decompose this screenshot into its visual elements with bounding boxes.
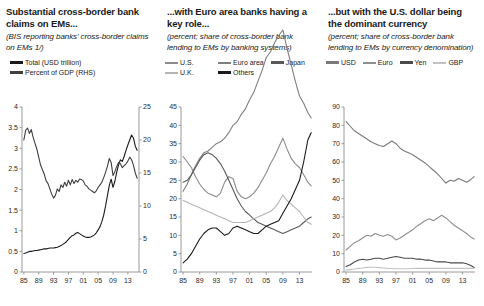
x-axis-tick-label: 09	[109, 277, 117, 284]
chart-bank-claims-plot: 00.511.522.533.5405101520258589939701050…	[0, 103, 161, 288]
legend-item-gbp: GBP	[433, 58, 463, 67]
panel-3-subtitle: (percent; share of cross-border bank len…	[328, 32, 477, 53]
x-axis-tick-label: 05	[262, 277, 270, 284]
x-axis-tick-label: 93	[212, 277, 220, 284]
y-axis-tick-label: 15	[169, 213, 177, 220]
y2-axis-tick-label: 25	[143, 103, 151, 110]
legend-item-us: U.S.	[165, 58, 211, 67]
y-axis-tick-label: 20	[332, 232, 340, 239]
y-axis-tick-label: 0	[14, 268, 18, 275]
panel-3-legend: USD Euro Yen GBP	[322, 58, 483, 67]
chart-series-line	[24, 135, 137, 253]
x-axis-tick-label: 97	[392, 277, 400, 284]
y-axis-tick-label: 45	[169, 103, 177, 110]
legend-label-yen: Yen	[415, 58, 427, 67]
y2-axis-tick-label: 0	[143, 268, 147, 275]
y-axis-tick-label: 70	[332, 140, 340, 147]
chart-series-line	[346, 256, 474, 267]
x-axis-tick-label: 09	[442, 277, 450, 284]
y-axis-tick-label: 3	[14, 145, 18, 152]
legend-label-percent-gdp: Percent of GDP (RHS)	[25, 68, 95, 77]
panel-3-titles: ...but with the U.S. dollar being the do…	[322, 0, 483, 53]
x-axis-tick-label: 89	[196, 277, 204, 284]
x-axis-tick-label: 13	[459, 277, 467, 284]
y-axis-tick-label: 10	[332, 250, 340, 257]
panel-3-title: ...but with the U.S. dollar being the do…	[328, 6, 477, 30]
panel-2-title: ...with Euro area banks having a key rol…	[167, 6, 316, 30]
panel-2-subtitle: (percent; share of cross-border bank len…	[167, 32, 316, 53]
x-axis-tick-label: 01	[79, 277, 87, 284]
legend-swatch-gbp	[433, 62, 446, 64]
panel-2-legend: U.S. Euro area Japan U.K. Othe	[161, 58, 322, 77]
chart-series-line	[346, 122, 474, 183]
x-axis-tick-label: 13	[296, 277, 304, 284]
chart-banking-systems-plot: 0510152025303540458589939701050913	[161, 103, 322, 288]
y-axis-tick-label: 40	[332, 195, 340, 202]
y-axis-tick-label: 10	[169, 232, 177, 239]
chart-series-line	[183, 195, 311, 224]
y-axis-tick-label: 30	[332, 213, 340, 220]
y-axis-tick-label: 0	[173, 268, 177, 275]
chart-svg: 00.511.522.533.5405101520258589939701050…	[0, 103, 161, 288]
y-axis-tick-label: 2	[14, 186, 18, 193]
y-axis-tick-label: 25	[169, 177, 177, 184]
y-axis-tick-label: 20	[169, 195, 177, 202]
chart-svg: 0510152025303540458589939701050913	[161, 103, 322, 288]
y2-axis-tick-label: 10	[143, 202, 151, 209]
legend-item-euro-area: Euro area	[218, 58, 264, 67]
legend-item-uk: U.K.	[165, 68, 211, 77]
legend-item-euro: Euro	[363, 58, 393, 67]
legend-label-others: Others	[233, 68, 254, 77]
legend-label-euro: Euro	[378, 58, 393, 67]
x-axis-tick-label: 85	[342, 277, 350, 284]
legend-row: Total (USD trillion)	[10, 58, 161, 67]
legend-label-euro-area: Euro area	[233, 58, 264, 67]
x-axis-tick-label: 89	[359, 277, 367, 284]
x-axis-tick-label: 85	[20, 277, 28, 284]
legend-label-usd: USD	[341, 58, 356, 67]
legend-swatch-us	[165, 62, 178, 64]
x-axis-tick-label: 85	[179, 277, 187, 284]
y-axis-tick-label: 2.5	[8, 165, 18, 172]
panel-banking-systems: ...with Euro area banks having a key rol…	[161, 0, 322, 306]
panel-bank-claims: Substantial cross-border bank claims on …	[0, 0, 161, 306]
y2-axis-tick-label: 20	[143, 136, 151, 143]
chart-series-line	[346, 267, 474, 270]
y2-axis-tick-label: 15	[143, 169, 151, 176]
panel-currency-denomination: ...but with the U.S. dollar being the do…	[322, 0, 483, 306]
legend-label-uk: U.K.	[180, 68, 194, 77]
legend-item-japan: Japan	[271, 58, 305, 67]
x-axis-tick-label: 05	[425, 277, 433, 284]
y-axis-tick-label: 0	[336, 268, 340, 275]
legend-swatch-euro	[363, 62, 376, 64]
legend-swatch-japan	[271, 61, 284, 64]
y-axis-tick-label: 1.5	[8, 207, 18, 214]
y-axis-tick-label: 40	[169, 122, 177, 129]
legend-swatch-yen	[400, 61, 413, 64]
y2-axis-tick-label: 5	[143, 235, 147, 242]
legend-swatch-others	[218, 71, 231, 74]
legend-item-yen: Yen	[400, 58, 427, 67]
legend-label-us: U.S.	[180, 58, 194, 67]
chart-series-line	[183, 138, 311, 199]
y-axis-tick-label: 5	[173, 250, 177, 257]
y-axis-tick-label: 1	[14, 227, 18, 234]
legend-row: Percent of GDP (RHS)	[10, 68, 161, 77]
panel-1-legend: Total (USD trillion) Percent of GDP (RHS…	[0, 58, 161, 77]
figure-three-panel-charts: Substantial cross-border bank claims on …	[0, 0, 484, 306]
panel-2-titles: ...with Euro area banks having a key rol…	[161, 0, 322, 53]
legend-swatch-percent-gdp	[10, 71, 23, 74]
y-axis-tick-label: 3.5	[8, 124, 18, 131]
legend-label-gbp: GBP	[448, 58, 463, 67]
chart-series-line	[346, 215, 474, 250]
x-axis-tick-label: 01	[409, 277, 417, 284]
legend-swatch-uk	[165, 72, 178, 74]
legend-row: U.S. Euro area Japan	[165, 58, 322, 67]
chart-currency-plot: 01020304050607080908589939701050913	[322, 103, 483, 288]
legend-label-japan: Japan	[286, 58, 305, 67]
chart-series-line	[183, 30, 311, 191]
y-axis-tick-label: 30	[169, 158, 177, 165]
legend-label-total: Total (USD trillion)	[25, 58, 81, 67]
legend-item-total: Total (USD trillion)	[10, 58, 81, 67]
y-axis-tick-label: 60	[332, 158, 340, 165]
